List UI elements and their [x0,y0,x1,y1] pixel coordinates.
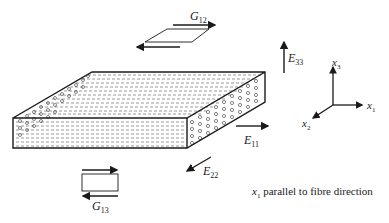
e22-arrow-group: E22 [187,157,218,180]
block-outline [13,72,265,148]
g12-parallelogram [145,29,209,42]
e22-label: E22 [202,164,218,180]
g13-rectangle [82,174,118,191]
x2-label: x2 [301,117,311,132]
composite-lamina-diagram: G12 E33 x3 x1 x2 [0,0,389,223]
g13-label: G13 [92,199,109,215]
e11-label: E11 [243,133,259,149]
x2-axis-arrow-icon [313,105,333,118]
lamina-block [13,72,265,148]
front-face-fibres [16,122,186,146]
g12-shear-element: G12 [137,9,215,47]
e33-arrow-group: E33 [284,42,303,73]
coordinate-axes: x3 x1 x2 [301,56,376,132]
e11-arrow-group: E11 [236,126,268,149]
left-edge-fibre-ends [19,75,90,137]
g13-shear-element: G13 [82,170,118,215]
g12-label: G12 [190,9,207,25]
fibre-direction-caption: x1 parallel to fibre direction [251,185,373,200]
e33-label: E33 [287,51,303,67]
x1-label: x1 [366,99,376,114]
